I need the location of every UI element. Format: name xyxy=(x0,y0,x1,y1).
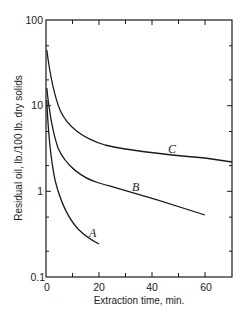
curve-c xyxy=(47,50,232,162)
x-tick-label-20: 20 xyxy=(93,281,105,293)
y-axis-ticks xyxy=(46,46,232,251)
plot-frame xyxy=(46,20,232,277)
y-tick-label-0-1: 0.1 xyxy=(30,271,45,283)
x-tick-label-0: 0 xyxy=(44,281,50,293)
x-tick-label-60: 60 xyxy=(200,281,212,293)
curve-a-label: A xyxy=(88,226,97,240)
y-tick-label-10: 10 xyxy=(31,99,43,111)
curve-b-label: B xyxy=(132,180,140,194)
curve-b xyxy=(47,88,205,215)
y-tick-label-1: 1 xyxy=(37,185,43,197)
y-axis-title: Residual oil, lb./100 lb. dry solids xyxy=(13,75,24,221)
curve-c-label: C xyxy=(168,142,177,156)
y-tick-label-100: 100 xyxy=(25,14,43,26)
x-tick-label-40: 40 xyxy=(146,281,158,293)
curve-a xyxy=(47,100,99,244)
residual-oil-chart: A B C 100 10 1 0.1 0 20 40 60 Extraction… xyxy=(0,0,240,317)
x-axis-title: Extraction time, min. xyxy=(94,295,185,306)
